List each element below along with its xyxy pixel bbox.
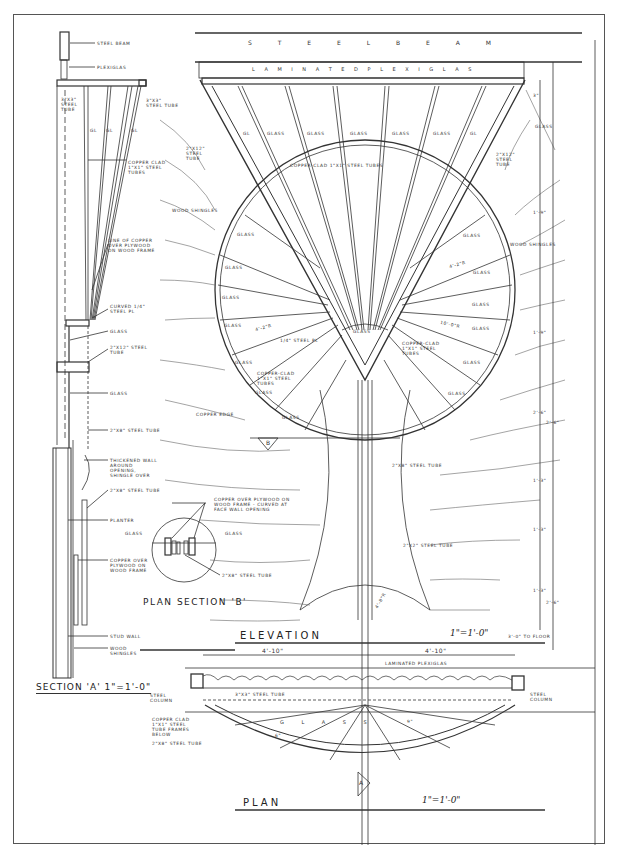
label-circle-glass-11: GLASS <box>463 360 481 365</box>
label-center-glass: GLASS <box>353 329 371 334</box>
label-steel-tube-2x8-a: 2"x8" STEEL TUBE <box>110 428 160 433</box>
plan-dim-right: 4'-10" <box>425 648 447 653</box>
label-wood-shingles-right: WOOD SHINGLES <box>510 242 556 247</box>
dim-right-1: 1'-9" <box>533 210 546 215</box>
label-glass-1: GLASS <box>110 329 128 334</box>
label-circle-glass-6: GLASS <box>282 415 300 420</box>
plan-dim-inner: 9" <box>407 719 413 724</box>
label-top-glass-2: GLASS <box>307 131 325 136</box>
elevation-drawing <box>160 33 595 845</box>
label-steel-pl: 1/4" STEEL PL <box>280 338 318 343</box>
plan-scale: 1"=1'-0" <box>422 795 461 805</box>
dim-right-2: 1'-9" <box>533 330 546 335</box>
label-circle-glass-9: GLASS <box>472 302 490 307</box>
label-psb-steel-tube: 2"x8" STEEL TUBE <box>222 573 272 578</box>
label-circle-glass-4: GLASS <box>235 360 253 365</box>
label-top-glass-1: GLASS <box>267 131 285 136</box>
label-steel-beam-elev: S T E E L B E A M <box>248 40 503 45</box>
label-circle-glass-2: GLASS <box>222 295 240 300</box>
label-stud-wall: STUD WALL <box>110 634 141 639</box>
label-glass-2: GLASS <box>110 391 128 396</box>
plan-label-laminated-plexiglas: LAMINATED PLEXIGLAS <box>385 661 447 666</box>
plan-label-copper-clad: COPPER CLAD 1"x1" STEEL TUBE FRAMES BELO… <box>152 717 200 737</box>
label-circle-glass-1: GLASS <box>225 265 243 270</box>
label-circle-glass-10: GLASS <box>472 326 490 331</box>
label-top-glass-3: GLASS <box>350 131 368 136</box>
label-planter: PLANTER <box>110 518 134 523</box>
label-thickened-wall: THICKENED WALL AROUND OPENING, SHINGLE O… <box>110 458 160 478</box>
plan-label-steel-column-left: STEEL COLUMN <box>150 693 180 703</box>
label-steel-tube-3x3-left: 3"x3" STEEL TUBE <box>61 97 91 112</box>
label-top-glass-0: GL <box>243 131 250 136</box>
label-top-glass-5: GLASS <box>433 131 451 136</box>
elevation-title: ELEVATION <box>240 630 322 641</box>
label-steel-tube-2x8-b: 2"x8" STEEL TUBE <box>110 488 160 493</box>
plan-section-b-drawing <box>140 503 235 650</box>
label-tube-2x2: 2"x2" STEEL TUBE <box>403 543 453 548</box>
dim-right-3: 2'-6" <box>533 410 546 415</box>
label-floor-note: 3'-0" TO FLOOR <box>508 634 551 639</box>
label-gl-2: GL <box>106 128 113 133</box>
label-tube-2x8: 2"x8" STEEL TUBE <box>392 463 442 468</box>
dim-right-8: 2'-6" <box>546 600 559 605</box>
label-gl-1: GL <box>90 128 97 133</box>
label-copper-clad-elev: COPPER-CLAD 1"x1" STEEL TUBES <box>290 163 383 168</box>
section-a-title-text: SECTION 'A' <box>36 682 101 692</box>
plan-title: PLAN <box>243 797 281 808</box>
label-circle-glass-0: GLASS <box>237 232 255 237</box>
label-wood-shingles-left: WOOD SHINGLES <box>172 208 218 213</box>
plan-dim-inner-2: 6" <box>275 733 281 738</box>
label-circle-glass-12: GLASS <box>448 391 466 396</box>
dim-right-0: 3" <box>533 93 539 98</box>
label-circle-glass-3: GLASS <box>224 323 242 328</box>
label-wood-shingles: WOOD SHINGLES <box>110 646 140 656</box>
label-copper-clad-tubes-right: COPPER-CLAD 1"x1" STEEL TUBES <box>402 341 447 356</box>
plan-label-tube-3x3: 3"x3" STEEL TUBE <box>235 692 285 697</box>
label-circle-glass-7: GLASS <box>463 233 481 238</box>
label-tube-right: 2"x12" STEEL TUBE <box>496 152 526 167</box>
label-psb-glass-left: GLASS <box>125 531 143 536</box>
section-a-scale: 1"=1'-0" <box>105 682 152 692</box>
plan-label-steel-column-right: STEEL COLUMN <box>530 692 560 702</box>
label-steel-tube-2x12: 2"x12" STEEL TUBE <box>110 345 150 355</box>
plan-drawing <box>185 655 595 810</box>
marker-b: B <box>266 440 271 445</box>
dim-right-7: 2'-6" <box>546 420 559 425</box>
label-copper-clad-tubes: COPPER CLAD 1"x1" STEEL TUBES <box>128 160 178 175</box>
dim-right-6: 1'-3" <box>533 588 546 593</box>
label-curved-steel-pl: CURVED 1/4" STEEL PL <box>110 304 150 314</box>
label-copper-clad-tubes-left: COPPER-CLAD 1"x1" STEEL TUBES <box>257 371 302 386</box>
label-plexiglas: PLEXIGLAS <box>97 65 126 70</box>
label-tube-left: 2"x12" STEEL TUBE <box>186 146 216 161</box>
label-glass-right: GLASS <box>535 124 553 129</box>
label-steel-tube-3x3-right: 3"x3" STEEL TUBE <box>146 98 180 108</box>
label-line-of-copper: LINE OF COPPER OVER PLYWOOD ON WOOD FRAM… <box>108 238 156 253</box>
section-a-title: SECTION 'A' 1"=1'-0" <box>36 682 151 694</box>
plan-label-tube-2x8: 2"x8" STEEL TUBE <box>152 741 202 746</box>
label-psb-copper: COPPER OVER PLYWOOD ON WOOD FRAME - CURV… <box>214 497 294 512</box>
dim-right-4: 1'-3" <box>533 478 546 483</box>
label-laminated-plexiglas: L A M I N A T E D P L E X I G L A S <box>252 67 475 72</box>
marker-a: A <box>359 780 364 785</box>
elevation-scale: 1"=1'-0" <box>450 628 489 638</box>
label-top-glass-6: GL <box>470 131 477 136</box>
label-circle-glass-5: GLASS <box>255 390 273 395</box>
plan-section-b-title: PLAN SECTION 'B' <box>143 597 247 607</box>
label-psb-glass-right: GLASS <box>225 531 243 536</box>
plan-dim-left: 4'-10" <box>262 648 284 653</box>
label-circle-glass-8: GLASS <box>473 270 491 275</box>
label-steel-beam: STEEL BEAM <box>97 41 130 46</box>
dim-right-5: 1'-3" <box>533 527 546 532</box>
label-copper-edge: COPPER EDGE <box>196 412 234 417</box>
label-copper-over-plywood: COPPER OVER PLYWOOD ON WOOD FRAME <box>110 558 150 573</box>
plan-label-glass: G L A S S <box>280 720 375 725</box>
label-gl-3: GL <box>131 128 138 133</box>
label-top-glass-4: GLASS <box>392 131 410 136</box>
